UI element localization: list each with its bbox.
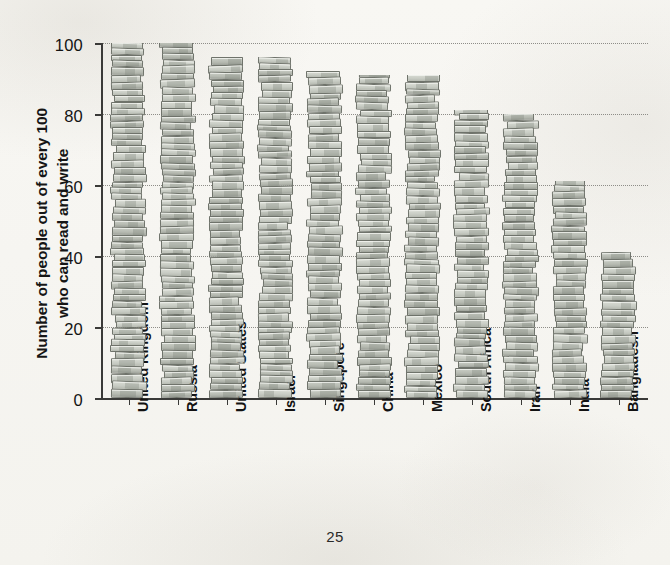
book-top-edge <box>554 266 586 268</box>
book-top-edge <box>210 251 241 253</box>
book-top-edge <box>504 209 534 211</box>
book-top-edge <box>505 183 537 185</box>
book-top-edge <box>406 83 438 85</box>
book-unit <box>504 390 536 398</box>
book-top-edge <box>505 230 535 231</box>
book-top-edge <box>557 322 586 324</box>
book-top-edge <box>211 210 243 212</box>
book-stack-bar <box>306 71 344 398</box>
book-top-edge <box>307 172 338 174</box>
x-tick-mark <box>472 399 473 405</box>
book-top-edge <box>259 328 291 330</box>
page-number: 25 <box>0 528 670 545</box>
book-top-edge <box>456 203 484 205</box>
book-top-edge <box>358 146 388 148</box>
book-top-edge <box>112 139 141 141</box>
book-top-edge <box>360 280 390 281</box>
book-top-edge <box>161 359 193 360</box>
book-unit <box>209 390 243 398</box>
book-top-edge <box>113 268 143 270</box>
x-tick-mark <box>619 399 620 405</box>
book-top-edge <box>455 134 487 136</box>
book-top-edge <box>162 322 194 323</box>
book-top-edge <box>113 182 142 184</box>
book-top-edge <box>406 293 437 295</box>
book-top-edge <box>111 249 143 251</box>
book-top-edge <box>211 292 242 293</box>
x-tick-mark <box>276 399 277 405</box>
book-top-edge <box>455 376 487 378</box>
book-top-edge <box>554 334 587 336</box>
book-top-edge <box>112 56 141 58</box>
book-top-edge <box>455 120 487 122</box>
x-tick-mark <box>374 399 375 405</box>
book-top-edge <box>260 195 291 197</box>
y-tick-mark: 40 <box>95 256 101 258</box>
book-top-edge <box>405 386 436 388</box>
book-top-edge <box>114 153 143 155</box>
book-top-edge <box>112 374 142 376</box>
book-top-edge <box>507 176 536 177</box>
book-stack-bar <box>551 181 589 398</box>
book-top-edge <box>409 150 440 152</box>
book-stack-bar <box>159 43 197 398</box>
book-top-edge <box>456 243 488 245</box>
book-top-edge <box>308 157 339 158</box>
book-top-edge <box>260 217 291 218</box>
x-tick-mark <box>325 399 326 405</box>
book-top-edge <box>359 378 390 380</box>
book-top-edge <box>213 128 242 130</box>
book-top-edge <box>357 91 386 93</box>
book-top-edge <box>554 342 582 344</box>
book-top-edge <box>165 371 193 373</box>
book-top-edge <box>504 236 533 237</box>
y-tick-label: 100 <box>55 36 83 55</box>
book-top-edge <box>505 136 535 138</box>
book-top-edge <box>262 158 291 160</box>
x-tick-mark <box>570 399 571 405</box>
x-tick-mark <box>423 399 424 405</box>
y-tick-mark: 100 <box>95 43 101 45</box>
book-top-edge <box>115 168 145 169</box>
book-top-edge <box>210 391 242 393</box>
book-top-edge <box>408 183 437 185</box>
y-tick-label: 60 <box>64 178 83 197</box>
book-stack-bar <box>600 252 638 398</box>
book-unit <box>358 390 391 398</box>
book-stack-bar <box>110 43 148 398</box>
book-top-edge <box>407 196 437 198</box>
book-top-edge <box>456 141 488 143</box>
book-top-edge <box>458 278 487 280</box>
book-top-edge <box>259 120 289 122</box>
book-top-edge <box>360 247 388 249</box>
book-top-edge <box>357 252 387 254</box>
book-top-edge <box>454 384 484 386</box>
book-top-edge <box>210 198 242 199</box>
book-top-edge <box>263 286 292 288</box>
book-top-edge <box>503 222 534 224</box>
book-top-edge <box>113 133 142 135</box>
book-top-edge <box>115 334 145 336</box>
book-top-edge <box>212 319 243 321</box>
book-top-edge <box>260 293 292 295</box>
book-top-edge <box>260 201 291 203</box>
x-tick-mark <box>178 399 179 405</box>
book-top-edge <box>162 385 194 386</box>
book-top-edge <box>213 272 242 274</box>
book-top-edge <box>457 320 488 322</box>
book-top-edge <box>212 265 241 266</box>
book-top-edge <box>309 321 340 323</box>
book-top-edge <box>212 81 243 83</box>
book-top-edge <box>408 308 439 310</box>
book-top-edge <box>162 101 191 103</box>
plot-area: 020406080100 <box>103 43 648 398</box>
book-top-edge <box>212 313 242 315</box>
book-top-edge <box>555 260 587 262</box>
book-top-edge <box>213 114 243 116</box>
book-top-edge <box>116 315 145 317</box>
book-top-edge <box>357 267 388 268</box>
book-top-edge <box>213 156 244 158</box>
book-top-edge <box>357 314 389 316</box>
book-top-edge <box>356 188 386 190</box>
book-top-edge <box>458 328 486 330</box>
